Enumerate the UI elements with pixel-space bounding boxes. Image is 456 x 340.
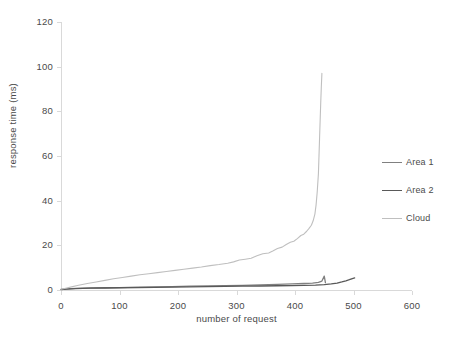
x-tick-mark xyxy=(178,291,179,295)
legend-item-label: Area 1 xyxy=(406,157,434,167)
legend-line-icon xyxy=(382,190,402,191)
plot-area xyxy=(61,22,412,290)
x-tick-label-text: 200 xyxy=(170,300,186,311)
x-tick-label: 300 xyxy=(217,295,257,313)
x-tick-label-text: 500 xyxy=(345,300,361,311)
y-tick-label-text: 20 xyxy=(42,239,53,250)
y-tick-label-text: 0 xyxy=(48,284,53,295)
line-chart: 020406080100120 0100200300400500600 resp… xyxy=(0,0,456,340)
y-tick-label: 120 xyxy=(0,16,53,28)
x-tick-label-text: 100 xyxy=(111,300,127,311)
x-tick-label-text: 300 xyxy=(228,300,244,311)
y-tick-label-text: 80 xyxy=(42,105,53,116)
chart-legend: Area 1Area 2Cloud xyxy=(382,148,456,232)
x-tick-mark xyxy=(237,291,238,295)
y-tick-label-text: 40 xyxy=(42,195,53,206)
x-tick-mark xyxy=(412,291,413,295)
x-tick-label: 500 xyxy=(334,295,374,313)
x-tick-label: 100 xyxy=(100,295,140,313)
series-layer xyxy=(61,22,412,290)
y-axis-title: response time (ms) xyxy=(7,46,18,206)
y-tick-label-text: 100 xyxy=(37,61,53,72)
x-tick-mark xyxy=(295,291,296,295)
x-tick-label-text: 400 xyxy=(287,300,303,311)
legend-item-cloud[interactable]: Cloud xyxy=(382,204,456,232)
x-tick-mark xyxy=(120,291,121,295)
legend-item-area-1[interactable]: Area 1 xyxy=(382,148,456,176)
legend-item-area-2[interactable]: Area 2 xyxy=(382,176,456,204)
legend-item-label: Area 2 xyxy=(406,185,434,195)
y-tick-label-text: 120 xyxy=(37,16,53,27)
x-tick-mark xyxy=(354,291,355,295)
x-tick-label: 200 xyxy=(158,295,198,313)
x-tick-label-text: 600 xyxy=(404,300,420,311)
y-tick-label: 20 xyxy=(0,239,53,251)
series-line-cloud xyxy=(61,73,322,289)
legend-line-icon xyxy=(382,162,402,163)
legend-line-icon xyxy=(382,218,402,219)
legend-item-label: Cloud xyxy=(406,213,431,223)
x-axis-title: number of request xyxy=(61,313,412,324)
x-tick-label: 0 xyxy=(41,295,81,313)
x-tick-mark xyxy=(61,291,62,295)
x-tick-label-text: 0 xyxy=(58,300,63,311)
y-tick-label-text: 60 xyxy=(42,150,53,161)
x-tick-label: 400 xyxy=(275,295,315,313)
x-tick-label: 600 xyxy=(392,295,432,313)
